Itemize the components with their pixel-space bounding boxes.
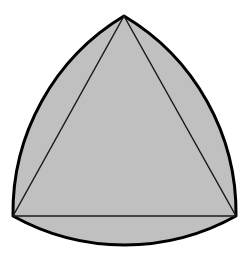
reuleaux-triangle-figure xyxy=(0,0,249,258)
reuleaux-outline-shape xyxy=(13,16,236,245)
figure-canvas xyxy=(0,0,249,258)
